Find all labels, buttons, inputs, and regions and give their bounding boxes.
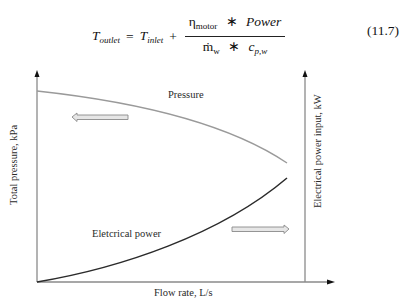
right-y-axis-label: Electrical power input, kW <box>312 94 323 208</box>
equation-lhs: Toutlet <box>92 28 120 45</box>
numerator-times: ∗ <box>226 14 238 29</box>
power-curve-label: Eletcrical power <box>92 228 161 239</box>
cp-subscript: p,w <box>255 46 268 56</box>
equation-block: Toutlet = Tinlet + ηmotor ∗ Power ṁw ∗ c… <box>0 0 416 60</box>
pump-curve-diagram <box>0 60 416 308</box>
up-arrow-icon <box>35 70 40 77</box>
mdot-subscript: w <box>213 46 220 56</box>
equation-number: (11.7) <box>367 23 399 39</box>
eta-symbol: η <box>189 14 196 29</box>
plus-sign: + <box>169 29 177 45</box>
mdot-symbol: ṁ <box>203 39 214 54</box>
pressure-curve-label: Pressure <box>168 89 204 100</box>
up-arrow-icon <box>303 70 308 77</box>
equals-sign: = <box>126 29 134 45</box>
equation-rhs-term: Tinlet <box>140 28 164 45</box>
rhs-subscript: inlet <box>147 35 163 45</box>
left-hollow-arrow-icon <box>72 113 128 122</box>
equation-formula: Toutlet = Tinlet + ηmotor ∗ Power ṁw ∗ c… <box>92 14 285 59</box>
left-y-axis <box>35 70 40 282</box>
denominator-times: ∗ <box>228 39 240 54</box>
power-term: Power <box>246 14 281 29</box>
left-y-axis-label: Total pressure, kPa <box>8 125 19 205</box>
right-hollow-arrow-icon <box>232 225 289 234</box>
x-axis <box>37 280 335 285</box>
x-axis-label: Flow rate, L/s <box>154 287 213 298</box>
equation-fraction: ηmotor ∗ Power ṁw ∗ cp,w <box>185 14 286 59</box>
pressure-curve <box>37 91 287 163</box>
lhs-symbol: T <box>92 28 100 43</box>
lhs-subscript: outlet <box>100 35 121 45</box>
fraction-denominator: ṁw ∗ cp,w <box>203 37 268 59</box>
fraction-numerator: ηmotor ∗ Power <box>185 14 286 37</box>
eta-subscript: motor <box>196 21 218 31</box>
right-y-axis <box>303 70 308 282</box>
right-arrow-icon <box>327 280 335 285</box>
